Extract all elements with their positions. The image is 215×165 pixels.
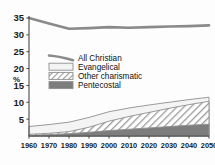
- x-tick-2020: 2020: [141, 141, 157, 150]
- legend-swatch-all-christian: [49, 56, 73, 61]
- y-tick-35: 35: [13, 12, 24, 23]
- x-tick-2030: 2030: [161, 141, 177, 150]
- x-tick-1980: 1980: [61, 141, 77, 150]
- legend-label-evangelical: Evangelical: [78, 63, 120, 72]
- all-christian-line: [29, 18, 209, 29]
- legend-swatch-pentecostal: [49, 82, 73, 89]
- y-axis-tick-labels: 5101520253035: [13, 12, 24, 124]
- legend-swatch-other-charismatic: [49, 72, 73, 79]
- y-tick-5: 5: [19, 114, 25, 125]
- x-tick-2040: 2040: [181, 141, 197, 150]
- y-axis-unit-label: %: [13, 75, 20, 84]
- plot-areas: [29, 97, 209, 136]
- y-tick-20: 20: [13, 63, 24, 74]
- x-tick-2000: 2000: [101, 141, 117, 150]
- chart-container: 5101520253035 19601970198019902000201020…: [0, 0, 215, 165]
- x-tick-1970: 1970: [41, 141, 57, 150]
- legend-label-pentecostal: Pentecostal: [78, 81, 121, 90]
- legend-label-all-christian: All Christian: [78, 54, 122, 63]
- legend-swatch-evangelical: [49, 63, 73, 70]
- y-tick-30: 30: [13, 29, 24, 40]
- y-tick-25: 25: [13, 46, 24, 57]
- x-axis-tick-labels: 1960197019801990200020102020203020402050: [21, 141, 215, 150]
- x-tick-1960: 1960: [21, 141, 37, 150]
- x-tick-1990: 1990: [81, 141, 97, 150]
- x-tick-2010: 2010: [121, 141, 137, 150]
- chart-legend: All ChristianEvangelicalOther charismati…: [49, 54, 142, 91]
- area-chart: 5101520253035 19601970198019902000201020…: [0, 0, 215, 165]
- x-tick-2050: 2050: [201, 141, 215, 150]
- line-all-christian: [29, 18, 209, 29]
- y-tick-10: 10: [13, 97, 24, 108]
- legend-label-other-charismatic: Other charismatic: [78, 72, 142, 81]
